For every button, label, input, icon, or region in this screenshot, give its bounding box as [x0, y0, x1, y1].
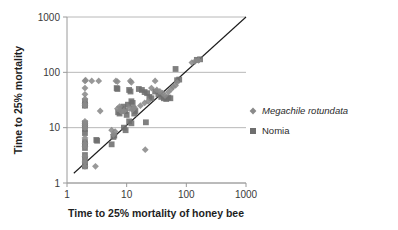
legend-label-nomia: Nomia	[262, 125, 290, 136]
y-tick-label-100: 100	[43, 67, 60, 78]
legend-label-megachile-rotundata: Megachile rotundata	[262, 105, 348, 116]
x-axis-title: Time to 25% mortality of honey bee	[68, 207, 244, 219]
x-axis-tick-marks	[67, 183, 246, 187]
x-axis-tick-labels: 1101001000	[64, 189, 257, 200]
data-point	[128, 89, 134, 95]
y-axis-tick-marks	[63, 17, 67, 183]
legend-marker-diamond	[250, 108, 257, 115]
data-point	[167, 95, 173, 101]
x-tick-label-1: 1	[64, 189, 70, 200]
y-tick-label-1: 1	[54, 178, 60, 189]
y-tick-label-1000: 1000	[38, 12, 61, 23]
x-tick-label-1000: 1000	[235, 189, 258, 200]
x-tick-label-10: 10	[121, 189, 133, 200]
data-point	[173, 66, 179, 72]
y-tick-label-10: 10	[49, 122, 61, 133]
data-point	[94, 138, 100, 144]
scatter-chart-figure: 1101001000 1101001000 Time to 25% mortal…	[0, 0, 398, 230]
legend: Megachile rotundataNomia	[250, 105, 348, 136]
legend-marker-square	[250, 128, 256, 134]
y-axis-tick-labels: 1101001000	[38, 12, 61, 189]
y-axis-title: Time to 25% mortality	[12, 46, 24, 154]
data-point	[115, 86, 121, 92]
data-point	[123, 127, 129, 133]
data-point	[128, 120, 134, 126]
chart-svg: 1101001000 1101001000 Time to 25% mortal…	[0, 0, 398, 230]
data-point	[109, 141, 115, 147]
data-point	[143, 119, 149, 125]
x-tick-label-100: 100	[178, 189, 195, 200]
